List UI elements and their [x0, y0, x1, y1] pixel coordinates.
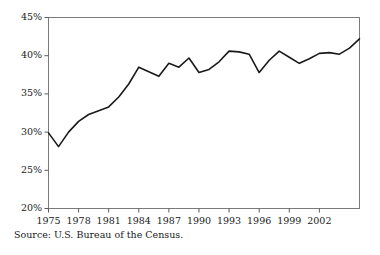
x-axis-ticks [49, 209, 320, 213]
source-note: Source: U.S. Bureau of the Census. [14, 229, 183, 240]
y-axis-tick-label: 25% [6, 164, 42, 175]
y-axis-tick-label: 40% [6, 49, 42, 60]
chart-figure: 45%40%35%30%25%20% 197519781981198419871… [0, 0, 380, 255]
y-axis-tick-label: 45% [6, 11, 42, 22]
x-axis-tick-label: 2002 [299, 215, 339, 226]
y-axis-tick-label: 35% [6, 87, 42, 98]
y-axis-tick-label: 20% [6, 202, 42, 213]
y-axis-tick-label: 30% [6, 126, 42, 137]
plot-frame [49, 18, 360, 209]
y-axis-ticks [45, 18, 49, 209]
